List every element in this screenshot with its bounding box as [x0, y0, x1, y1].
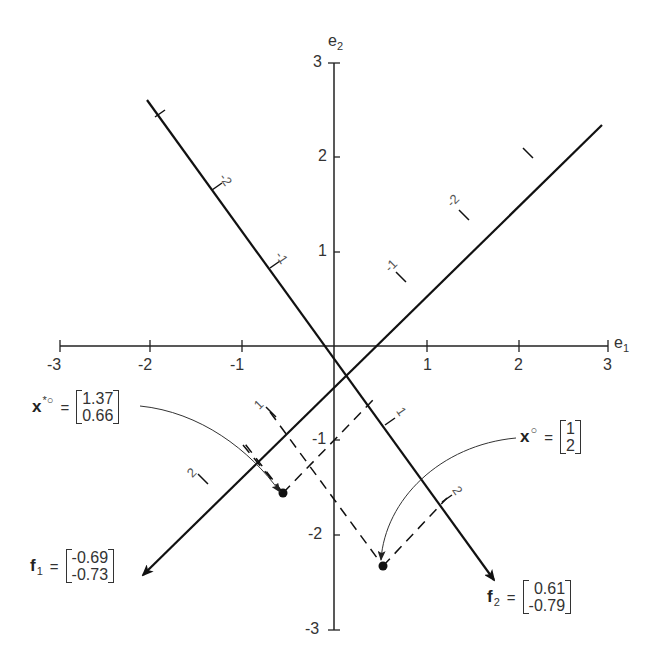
x-star-matrix: 1.37 0.66	[76, 390, 119, 424]
e2-tick-label: -2	[308, 525, 322, 543]
equals-sign: =	[60, 399, 69, 416]
x-superscript: ○	[530, 424, 537, 436]
f2-matrix: 0.61 -0.79	[523, 580, 571, 614]
e1-tick-label: -3	[47, 356, 61, 374]
e2-label-text: e	[328, 32, 337, 49]
e2-label-sub: 2	[337, 40, 343, 52]
f1-matrix: -0.69 -0.73	[66, 549, 114, 583]
e2-tick-label: -3	[305, 620, 319, 638]
matrix-cell: -0.73	[72, 566, 108, 583]
equals-sign: =	[544, 429, 553, 446]
equals-sign: =	[507, 589, 516, 606]
e1-tick-label: 1	[423, 356, 432, 374]
matrix-cell: 0.66	[82, 407, 113, 424]
x-name: x	[520, 427, 529, 447]
matrix-cell: 1	[566, 420, 575, 437]
f1-name: f	[30, 556, 36, 576]
x-label: x○ = 1 2	[520, 420, 581, 454]
x-star-name: x	[32, 397, 41, 417]
e1-tick-label: -2	[138, 356, 152, 374]
e1-label-sub: 1	[623, 342, 629, 354]
e2-tick-label: 2	[318, 147, 327, 165]
x-star-superscript: *○	[42, 394, 53, 406]
x-star-pointer	[140, 406, 280, 492]
f2-subscript: 2	[494, 596, 500, 608]
f2-axis	[147, 100, 494, 580]
e2-axis-label: e2	[328, 32, 343, 52]
x-matrix: 1 2	[560, 420, 581, 454]
f2-name: f	[487, 587, 493, 607]
e1-tick-label: 2	[514, 356, 523, 374]
e1-tick-label: -1	[230, 356, 244, 374]
e1-label-text: e	[614, 334, 623, 351]
f1-axis	[143, 125, 602, 575]
f2-label: f2 = 0.61 -0.79	[487, 580, 571, 614]
e1-tick-label: 3	[603, 356, 612, 374]
e2-tick-label: 3	[313, 53, 322, 71]
x-point	[379, 562, 388, 571]
e1-axis-label: e1	[614, 334, 629, 354]
x-pointer	[381, 438, 516, 560]
e2-tick-label: 1	[318, 242, 327, 260]
equals-sign: =	[50, 558, 59, 575]
x-star-label: x*○ = 1.37 0.66	[32, 390, 119, 424]
matrix-cell: -0.69	[72, 549, 108, 566]
matrix-cell: 1.37	[82, 390, 113, 407]
f1-subscript: 1	[37, 565, 43, 577]
f1-label: f1 = -0.69 -0.73	[30, 549, 114, 583]
x-star-point	[279, 489, 288, 498]
matrix-cell: 0.61	[534, 580, 565, 597]
e2-tick-label: -1	[312, 430, 326, 448]
matrix-cell: -0.79	[529, 597, 565, 614]
matrix-cell: 2	[566, 437, 575, 454]
